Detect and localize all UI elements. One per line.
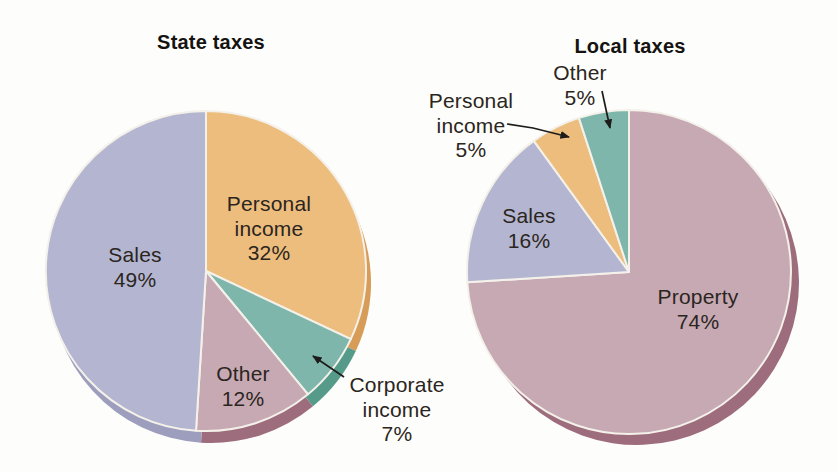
local-other-label: Other 5% bbox=[553, 61, 607, 110]
state-other-label: Other 12% bbox=[216, 362, 270, 411]
tax-pie-figure: State taxes Local taxes Sales 49% Person… bbox=[0, 0, 837, 472]
state-sales-label: Sales 49% bbox=[108, 243, 162, 292]
state-taxes-title: State taxes bbox=[157, 31, 265, 54]
local-sales-label: Sales 16% bbox=[502, 204, 556, 253]
state-taxes-pie-body bbox=[46, 111, 366, 431]
local-taxes-title: Local taxes bbox=[574, 35, 685, 58]
state-corporate-income-label: Corporate income 7% bbox=[349, 373, 444, 447]
state-taxes-pie bbox=[46, 111, 371, 443]
local-taxes-pie bbox=[467, 110, 799, 445]
local-taxes-pie-body bbox=[467, 110, 791, 434]
local-personal-income-label: Personal income 5% bbox=[429, 89, 513, 163]
state-personal-income-label: Personal income 32% bbox=[227, 192, 311, 266]
local-property-label: Property 74% bbox=[658, 285, 739, 334]
